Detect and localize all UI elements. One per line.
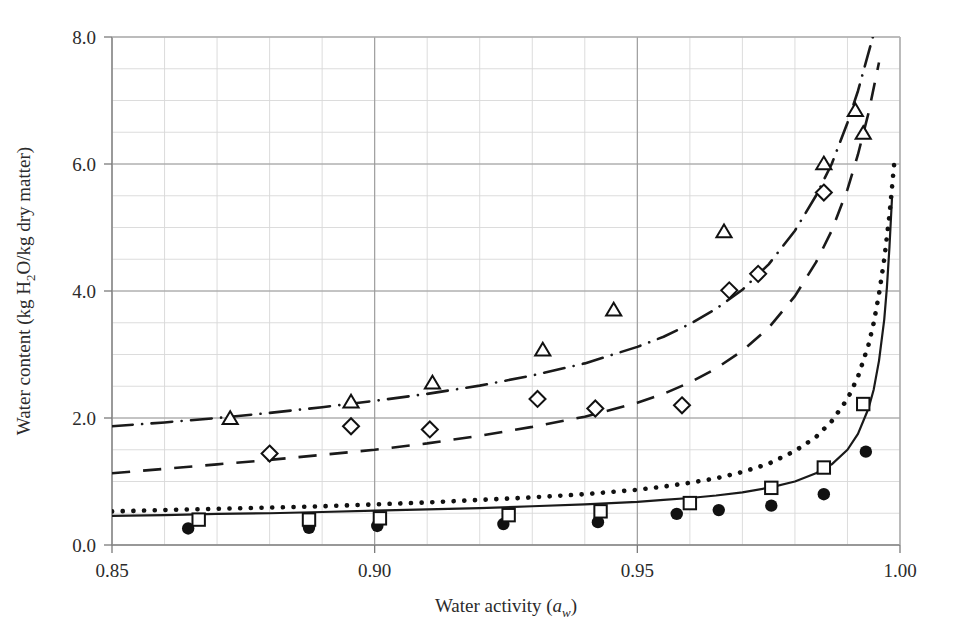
data-point-open-square bbox=[818, 461, 830, 473]
x-axis-title-subscript: w bbox=[562, 605, 571, 620]
data-point-open-square bbox=[857, 398, 869, 410]
x-axis-title-symbol: a bbox=[553, 595, 563, 616]
data-point-open-square bbox=[594, 505, 606, 517]
x-axis-title-close: ) bbox=[571, 595, 577, 617]
x-tick-label: 1.00 bbox=[883, 560, 916, 581]
data-point-filled-circle bbox=[860, 445, 872, 457]
chart-background bbox=[0, 0, 957, 640]
y-axis-title-part2: O/kg dry matter) bbox=[13, 147, 35, 275]
y-axis-title-part1: Water content (kg H bbox=[13, 281, 35, 435]
data-point-filled-circle bbox=[818, 488, 830, 500]
y-tick-label: 4.0 bbox=[72, 281, 96, 302]
data-point-open-square bbox=[684, 497, 696, 509]
x-axis-title-text: Water activity ( bbox=[435, 595, 553, 617]
chart-figure: 0.02.04.06.08.00.850.900.951.00 Water ac… bbox=[0, 0, 957, 640]
x-tick-label: 0.85 bbox=[95, 560, 128, 581]
y-tick-label: 8.0 bbox=[72, 27, 96, 48]
water-sorption-isotherm-chart: 0.02.04.06.08.00.850.900.951.00 Water ac… bbox=[0, 0, 957, 640]
y-tick-label: 2.0 bbox=[72, 408, 96, 429]
data-point-filled-circle bbox=[713, 504, 725, 516]
data-point-filled-circle bbox=[671, 508, 683, 520]
data-point-open-square bbox=[192, 513, 204, 525]
y-tick-label: 6.0 bbox=[72, 154, 96, 175]
data-point-open-square bbox=[502, 509, 514, 521]
y-tick-label: 0.0 bbox=[72, 535, 96, 556]
data-point-open-square bbox=[374, 512, 386, 524]
data-point-filled-circle bbox=[765, 499, 777, 511]
x-tick-label: 0.90 bbox=[358, 560, 391, 581]
data-point-open-square bbox=[765, 482, 777, 494]
x-tick-label: 0.95 bbox=[621, 560, 654, 581]
data-point-open-square bbox=[303, 513, 315, 525]
